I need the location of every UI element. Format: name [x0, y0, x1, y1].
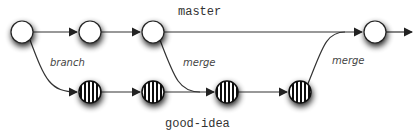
good-idea-branch-label: good-idea: [165, 117, 230, 131]
striped-commit-node: [216, 81, 238, 103]
striped-commit-node: [142, 81, 164, 103]
commit-node: [79, 21, 101, 43]
striped-commit-node: [289, 81, 311, 103]
commit-node: [364, 21, 386, 43]
striped-commit-node: [79, 81, 101, 103]
commit-node: [142, 21, 164, 43]
merge-edge-label-2: merge: [332, 55, 365, 66]
commit-node: [11, 21, 33, 43]
git-diagram: master good-idea branch merge merge: [0, 0, 420, 133]
master-branch-label: master: [178, 5, 221, 19]
branch-edge-label: branch: [50, 57, 85, 68]
merge-edge-label-1: merge: [183, 57, 216, 68]
